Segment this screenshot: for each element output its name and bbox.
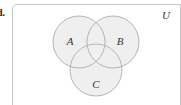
venn-diagram: U A B C xyxy=(0,0,181,105)
set-label-c: C xyxy=(92,78,100,90)
set-label-b: B xyxy=(117,35,124,47)
set-label-a: A xyxy=(66,35,74,47)
universe-label: U xyxy=(162,9,171,21)
